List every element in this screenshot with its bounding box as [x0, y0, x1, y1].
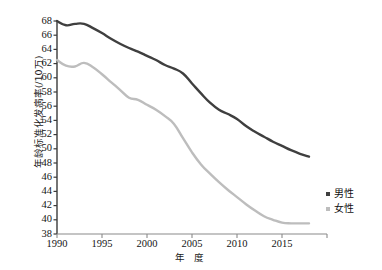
x-axis-tick-labels: 199019952000200520102015	[0, 0, 382, 270]
legend-label: 男性	[334, 189, 354, 199]
legend-swatch-icon	[326, 192, 330, 196]
legend-label: 女性	[334, 204, 354, 214]
x-axis-title: 年 度	[0, 250, 382, 264]
legend-item-1[interactable]: 男性	[326, 186, 382, 201]
chart-legend: 男性女性	[326, 186, 382, 216]
x-tick-label: 2005	[170, 238, 214, 249]
chart-container: 68666462605856545250484644424038 1990199…	[0, 0, 382, 270]
x-tick-label: 2000	[125, 238, 169, 249]
x-tick-label: 1995	[80, 238, 124, 249]
x-tick-label: 2010	[215, 238, 259, 249]
x-tick-label: 1990	[35, 238, 79, 249]
y-axis-title: 年龄标准化发病率(/10万)	[31, 12, 45, 212]
x-tick-label: 2015	[260, 238, 304, 249]
legend-swatch-icon	[326, 207, 330, 211]
legend-item-2[interactable]: 女性	[326, 201, 382, 216]
